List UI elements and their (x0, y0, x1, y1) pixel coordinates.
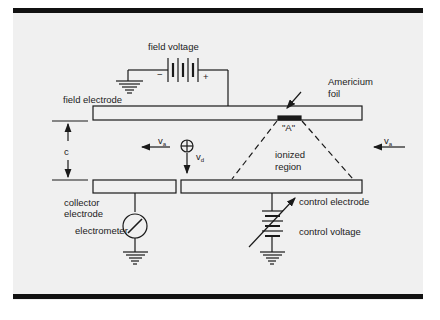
positive-ion-icon (181, 140, 193, 152)
field-voltage-label: field voltage (148, 41, 199, 52)
control-electrode (181, 180, 362, 193)
air-velocity-left-label: va (158, 135, 167, 147)
schematic: field voltage − + field electrode Americ… (0, 0, 440, 320)
electrometer-label: electrometer (75, 225, 128, 236)
collector-electrode (93, 180, 176, 193)
control-voltage-label: control voltage (299, 226, 361, 237)
control-electrode-label: control electrode (299, 196, 369, 207)
collector-electrode-label: electrode (64, 208, 103, 219)
region-label: region (275, 161, 301, 172)
battery-minus-label: − (157, 69, 163, 80)
americium-label: Americium (328, 76, 373, 87)
ground-icon (116, 81, 143, 93)
field-electrode (93, 106, 362, 120)
ionized-label: ionized (275, 149, 305, 160)
collector-label: collector (64, 197, 99, 208)
ground-icon (123, 252, 148, 264)
foil-label: foil (328, 88, 340, 99)
ground-icon (260, 252, 285, 264)
battery-plus-label: + (203, 71, 209, 82)
source-area-label: "A" (282, 122, 295, 133)
field-electrode-label: field electrode (63, 94, 122, 105)
gap-label: c (64, 146, 69, 157)
battery-icon (128, 58, 228, 106)
air-velocity-right-label: va (384, 135, 393, 147)
drift-velocity-label: vd (196, 151, 204, 163)
